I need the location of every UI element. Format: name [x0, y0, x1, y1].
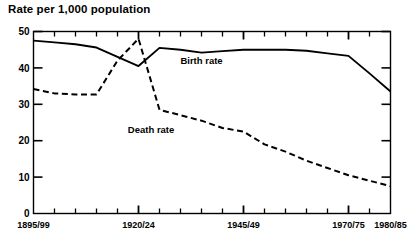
x-axis-tick-label: 1920/24	[122, 220, 155, 230]
chart-container: Rate per 1,000 population 01020304050 18…	[0, 0, 418, 246]
y-axis-tick-label: 10	[18, 172, 30, 183]
line-chart: 01020304050 1895/991920/241945/491970/75…	[0, 0, 418, 246]
x-axis-tick-label: 1895/99	[17, 220, 50, 230]
y-axis-tick-label: 20	[18, 135, 30, 146]
y-axis-tick-label: 40	[18, 63, 30, 74]
y-axis-tick-label: 50	[18, 26, 30, 37]
y-axis-ticks	[34, 32, 391, 178]
y-axis-tick-label: 30	[18, 99, 30, 110]
x-axis-labels: 1895/991920/241945/491970/751980/85	[17, 220, 407, 230]
x-axis-tick-label: 1970/75	[332, 220, 365, 230]
series-annotations: Birth rateDeath rate	[128, 55, 223, 134]
y-axis-tick-label: 0	[24, 208, 30, 219]
y-axis-labels: 01020304050	[18, 26, 30, 219]
x-axis-tick-label: 1945/49	[227, 220, 260, 230]
x-axis-tick-label: 1980/85	[374, 220, 407, 230]
series-label: Birth rate	[180, 55, 222, 66]
series-label: Death rate	[128, 124, 174, 135]
